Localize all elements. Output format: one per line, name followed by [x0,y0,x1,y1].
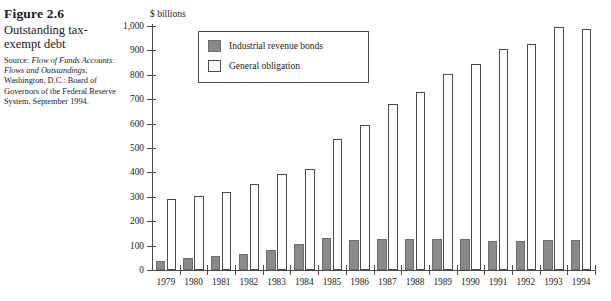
x-axis-label-1982: 1982 [240,277,259,287]
chart-plot: $ billions 01002003004005006007008009001… [0,0,611,301]
bar-industrial-revenue-bonds [571,240,581,270]
y-axis-tick-label: 400 [108,167,144,177]
x-axis-label-1989: 1989 [433,277,452,287]
bar-general-obligation [305,169,315,270]
x-axis-label-1979: 1979 [157,277,176,287]
y-axis-tick-label: 700 [108,94,144,104]
bar-industrial-revenue-bonds [543,240,553,270]
bar-general-obligation [250,184,260,270]
bar-general-obligation [416,92,426,270]
bar-general-obligation [277,174,287,270]
figure-container: Figure 2.6 Outstanding tax-exempt debt S… [0,0,611,301]
x-axis-label-1993: 1993 [544,277,563,287]
legend-label-industrial-revenue-bonds: Industrial revenue bonds [229,41,323,51]
bar-general-obligation [554,27,564,270]
bar-industrial-revenue-bonds [460,239,470,270]
bar-general-obligation [582,29,592,270]
legend-swatch-icon-industrial-revenue-bonds [208,40,221,52]
bar-industrial-revenue-bonds [322,238,332,270]
bar-industrial-revenue-bonds [349,240,359,270]
x-axis-label-1985: 1985 [323,277,342,287]
x-axis-label-1988: 1988 [406,277,425,287]
bar-general-obligation [499,49,509,270]
x-axis-label-1990: 1990 [461,277,480,287]
y-axis-tick-label: 900 [108,45,144,55]
y-axis-tick [147,270,156,271]
bar-industrial-revenue-bonds [516,241,526,270]
bar-general-obligation [527,44,537,270]
bar-general-obligation [360,125,370,270]
bar-industrial-revenue-bonds [488,241,498,270]
bar-general-obligation [222,192,232,270]
legend-item-general-obligation: General obligation [208,59,300,73]
bar-industrial-revenue-bonds [156,261,166,270]
y-axis-tick-label: 100 [108,241,144,251]
legend-label-general-obligation: General obligation [229,61,300,71]
bar-industrial-revenue-bonds [405,239,415,270]
bar-industrial-revenue-bonds [377,239,387,270]
y-axis-tick-label: 1,000 [108,21,144,31]
bar-industrial-revenue-bonds [432,239,442,270]
bar-general-obligation [471,64,481,270]
y-axis-tick-label: 600 [108,119,144,129]
bar-general-obligation [167,199,177,270]
y-axis-tick-label: 0 [108,265,144,275]
x-axis-label-1992: 1992 [516,277,535,287]
y-axis-tick-label: 800 [108,70,144,80]
bar-general-obligation [388,104,398,270]
legend-item-industrial-revenue-bonds: Industrial revenue bonds [208,39,323,53]
x-axis-label-1986: 1986 [350,277,369,287]
x-axis-label-1980: 1980 [184,277,203,287]
x-axis-tick [595,265,596,275]
x-axis-label-1991: 1991 [489,277,508,287]
y-axis-unit-label: $ billions [150,9,186,19]
y-axis-tick-label: 300 [108,192,144,202]
y-axis-tick-label: 500 [108,143,144,153]
x-axis-label-1994: 1994 [572,277,591,287]
bar-general-obligation [333,139,343,270]
y-axis-tick-label: 200 [108,216,144,226]
legend-swatch-icon-general-obligation [208,60,221,72]
bar-industrial-revenue-bonds [183,258,193,270]
bar-general-obligation [443,74,453,270]
x-axis-label-1983: 1983 [267,277,286,287]
x-axis-label-1984: 1984 [295,277,314,287]
bar-industrial-revenue-bonds [211,256,221,270]
bar-industrial-revenue-bonds [266,250,276,270]
bar-industrial-revenue-bonds [239,254,249,270]
bar-general-obligation [194,196,204,270]
x-axis-label-1987: 1987 [378,277,397,287]
chart-legend: Industrial revenue bonds General obligat… [198,31,369,83]
x-axis-label-1981: 1981 [212,277,231,287]
bar-industrial-revenue-bonds [294,244,304,270]
